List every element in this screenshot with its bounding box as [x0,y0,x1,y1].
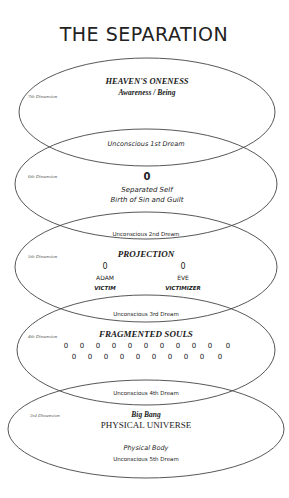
heading-projection: PROJECTION [118,249,175,259]
svg-text:0: 0 [80,342,84,350]
separation-diagram: THE SEPARATION 7th Dimension HEAVEN'S ON… [0,0,289,498]
dimension-label-4: 4th Dimension [28,334,58,339]
svg-text:0: 0 [128,342,132,350]
ellipse-7th-dimension [19,58,275,166]
svg-text:0: 0 [184,353,188,361]
svg-text:0: 0 [112,342,116,350]
separated-self-label: Separated Self [121,186,174,194]
victim-label: VICTIM [94,285,116,291]
heading-physical-universe: PHYSICAL UNIVERSE [101,420,192,430]
overlap-label-2: Unconscious 2nd Dream [113,231,180,237]
adam-symbol: 0 [102,262,107,271]
svg-text:0: 0 [226,342,230,350]
svg-text:0: 0 [168,353,172,361]
eve-symbol: 0 [180,262,185,271]
svg-text:0: 0 [144,342,148,350]
physical-body-label: Physical Body [124,444,169,452]
heading-fragmented-souls: FRAGMENTED SOULS [98,329,193,339]
svg-text:0: 0 [208,342,212,350]
victimizer-label: VICTIMIZER [165,285,201,291]
svg-text:0: 0 [176,342,180,350]
dimension-label-7: 7th Dimension [28,94,58,99]
svg-text:0: 0 [96,342,100,350]
svg-text:0: 0 [152,353,156,361]
svg-text:0: 0 [160,342,164,350]
heading-big-bang: Big Bang [130,410,161,419]
svg-text:0: 0 [104,353,108,361]
dimension-label-3: 3rd Dimension [30,413,60,418]
svg-text:0: 0 [88,353,92,361]
dimension-label-6: 6th Dimension [28,174,58,179]
svg-text:0: 0 [136,353,140,361]
dimension-label-5: 5th Dimension [28,254,58,259]
birth-of-sin-label: Birth of Sin and Guilt [111,196,184,204]
svg-text:0: 0 [64,342,68,350]
fragmented-souls-row-1: 0 0 0 0 0 0 0 0 0 0 0 [64,342,230,350]
adam-label: ADAM [96,274,114,281]
diagram-title: THE SEPARATION [59,23,229,45]
overlap-label-3: Unconscious 3rd Dream [113,311,179,317]
subheading-awareness: Awareness / Being [118,88,176,97]
eve-label: EVE [177,274,189,281]
overlap-label-1: Unconscious 1st Dream [108,140,185,148]
svg-text:0: 0 [192,342,196,350]
overlap-label-4: Unconscious 4th Dream [113,390,179,396]
svg-text:0: 0 [120,353,124,361]
fragmented-souls-row-2: 0 0 0 0 0 0 0 0 0 0 [72,353,222,361]
heading-heavens-oneness: HEAVEN'S ONENESS [104,76,188,86]
svg-text:0: 0 [218,353,222,361]
ellipse-5th-dimension [15,212,277,322]
unconscious-5th-dream-label: Unconscious 5th Dream [113,456,179,462]
svg-text:0: 0 [200,353,204,361]
svg-text:0: 0 [72,353,76,361]
separated-self-symbol: 0 [144,171,151,182]
